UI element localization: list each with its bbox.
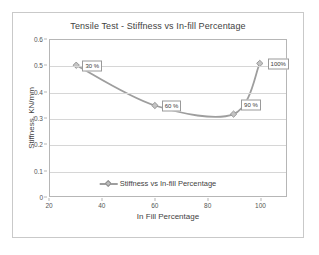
y-tick-mark [44,39,47,40]
data-point-label: 90 % [241,100,261,111]
y-tick-label: 0 [39,194,43,201]
chart-legend: Stiffness vs In-fill Percentage [100,179,217,188]
chart-frame: Tensile Test - Stiffness vs In-fill Perc… [12,12,304,238]
x-tick-mark [154,198,155,201]
x-axis-title: In Fill Percentage [49,212,287,221]
x-tick-mark [101,198,102,201]
gridline [50,93,286,94]
y-tick-label: 0.6 [34,36,43,43]
data-point-label: 100% [268,58,289,69]
y-tick-mark [44,118,47,119]
data-point-marker[interactable] [230,111,236,117]
plot-area: 30 %60 %90 %100% [49,39,287,197]
y-tick-mark [44,65,47,66]
gridline [50,145,286,146]
x-tick-mark [207,198,208,201]
y-tick-mark [44,197,47,198]
y-tick-label: 0.4 [34,88,43,95]
gridline [50,172,286,173]
gridline [50,119,286,120]
chart-title: Tensile Test - Stiffness vs In-fill Perc… [13,21,303,31]
x-tick-label: 20 [45,202,52,209]
legend-marker-icon [100,179,118,188]
x-tick-label: 60 [151,202,158,209]
data-point-marker[interactable] [73,62,79,68]
y-tick-label: 0.5 [34,62,43,69]
y-axis-ticks: 00.10.20.30.40.50.6 [13,39,47,197]
x-tick-label: 100 [255,202,266,209]
data-point-label: 60 % [162,101,182,112]
y-tick-mark [44,170,47,171]
x-tick-mark [260,198,261,201]
y-tick-mark [44,144,47,145]
x-axis-ticks: 20406080100 [49,198,287,212]
y-tick-label: 0.3 [34,115,43,122]
x-tick-mark [49,198,50,201]
legend-label: Stiffness vs In-fill Percentage [120,179,217,188]
y-tick-label: 0.2 [34,141,43,148]
y-tick-label: 0.1 [34,167,43,174]
data-point-label: 30 % [82,60,102,71]
y-tick-mark [44,91,47,92]
x-tick-label: 80 [204,202,211,209]
data-point-marker[interactable] [152,102,158,108]
x-tick-label: 40 [98,202,105,209]
